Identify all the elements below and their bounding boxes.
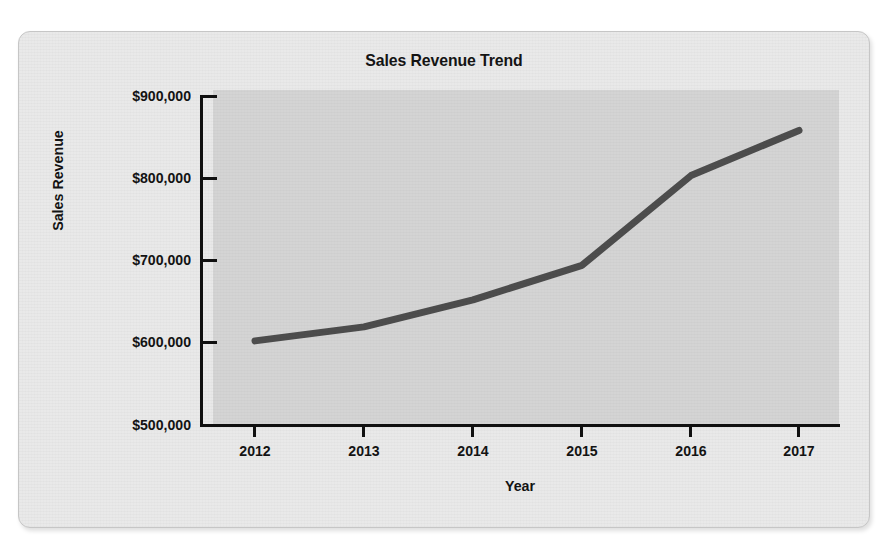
screenshot-root: Sales Revenue Trend $900,000 $800,000 $7… xyxy=(0,0,896,553)
chart-series-layer xyxy=(19,32,869,527)
revenue-line-series xyxy=(255,130,799,341)
chart-figure-card: Sales Revenue Trend $900,000 $800,000 $7… xyxy=(18,31,870,528)
